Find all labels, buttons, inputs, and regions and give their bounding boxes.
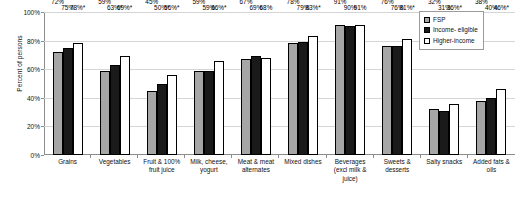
bar[interactable] (63, 48, 73, 155)
x-axis-category-label: Vegetables (91, 158, 138, 183)
bar-group: 76%76%81%* (374, 12, 421, 155)
bar[interactable] (345, 26, 355, 155)
bar-value-label: 91% (354, 5, 367, 11)
y-axis-tick-label: 20% (27, 123, 40, 130)
bar[interactable] (449, 104, 459, 155)
bar[interactable] (261, 58, 271, 155)
x-axis-labels: GrainsVegetablesFruit & 100% fruit juice… (44, 158, 515, 183)
bar[interactable] (100, 71, 110, 155)
bar-column[interactable]: 91% (355, 12, 365, 155)
bar[interactable] (241, 59, 251, 155)
bar[interactable] (194, 71, 204, 155)
bar-column[interactable]: 68% (261, 12, 271, 155)
bar-value-label: 83%* (305, 5, 320, 11)
bar-value-label: 69%* (117, 5, 132, 11)
bar-column[interactable]: 83%* (308, 12, 318, 155)
legend-item-label: Higher-income (433, 36, 475, 46)
bar[interactable] (110, 65, 120, 155)
y-axis-title: Percent of persons (16, 14, 23, 114)
bar-group: 78%79%83%* (279, 12, 326, 155)
bar-group-bars: 72%75%78%* (44, 12, 91, 155)
x-axis-category-label: Mixed dishes (279, 158, 326, 183)
bar[interactable] (439, 111, 449, 155)
bar-column[interactable]: 90% (345, 12, 355, 155)
bar-column[interactable]: 45% (147, 12, 157, 155)
bar-column[interactable]: 40% (486, 12, 496, 155)
bar[interactable] (157, 84, 167, 156)
bar[interactable] (167, 75, 177, 155)
gridline (44, 155, 515, 156)
bar-group-bars: 91%90%91% (327, 12, 374, 155)
bar[interactable] (308, 36, 318, 155)
bar[interactable] (204, 71, 214, 155)
bar-column[interactable]: 72% (53, 12, 63, 155)
bar-column[interactable]: 69% (251, 12, 261, 155)
legend-item-label: Income- eligible (433, 25, 478, 35)
bar[interactable] (335, 25, 345, 155)
legend-item[interactable]: FSP (424, 15, 478, 25)
bar-column[interactable]: 76% (382, 12, 392, 155)
x-axis-category-label: Salty snacks (421, 158, 468, 183)
bar-value-label: 46%* (494, 5, 509, 11)
bar-column[interactable]: 67% (241, 12, 251, 155)
bar[interactable] (392, 46, 402, 155)
bar-group: 67%69%68% (232, 12, 279, 155)
bar[interactable] (476, 101, 486, 155)
bar-column[interactable]: 75% (63, 12, 73, 155)
bar-group: 45%50%*56%* (138, 12, 185, 155)
bar[interactable] (214, 61, 224, 155)
bar[interactable] (147, 91, 157, 155)
legend-swatch-icon (424, 38, 430, 44)
bar-value-label: 66%* (211, 5, 226, 11)
bar-column[interactable]: 46%* (496, 12, 506, 155)
bar[interactable] (486, 98, 496, 155)
bar-value-label: 68% (260, 5, 273, 11)
bar-column[interactable]: 50%* (157, 12, 167, 155)
legend-item[interactable]: Income- eligible (424, 25, 478, 35)
bar[interactable] (73, 43, 83, 155)
bar-group: 59%59%66%* (185, 12, 232, 155)
legend-item[interactable]: Higher-income (424, 36, 478, 46)
bar-column[interactable]: 78% (288, 12, 298, 155)
y-axis-tick (41, 155, 44, 156)
bar[interactable] (355, 25, 365, 155)
legend-swatch-icon (424, 27, 430, 33)
bar-column[interactable]: 59% (100, 12, 110, 155)
bar-column[interactable]: 69%* (120, 12, 130, 155)
bar-column[interactable]: 81%* (402, 12, 412, 155)
x-axis-category-label: Grains (44, 158, 91, 183)
bar-group-bars: 67%69%68% (232, 12, 279, 155)
bar[interactable] (382, 46, 392, 155)
bar-group: 72%75%78%* (44, 12, 91, 155)
bar-value-label: 78%* (70, 5, 85, 11)
bar-column[interactable]: 78%* (73, 12, 83, 155)
x-axis-category-label: Meat & meat alternates (232, 158, 279, 183)
bar[interactable] (429, 109, 439, 155)
bar-column[interactable]: 79% (298, 12, 308, 155)
bar-value-label: 81%* (400, 5, 415, 11)
bar[interactable] (120, 56, 130, 155)
legend-swatch-icon (424, 17, 430, 23)
legend-item-label: FSP (433, 15, 445, 25)
legend: FSPIncome- eligibleHigher-income (419, 11, 484, 50)
bar-group: 91%90%91% (327, 12, 374, 155)
bar[interactable] (288, 43, 298, 155)
y-axis-tick-label: 80% (27, 37, 40, 44)
bar-column[interactable]: 59% (204, 12, 214, 155)
bar[interactable] (251, 56, 261, 155)
bar[interactable] (402, 39, 412, 155)
bar-column[interactable]: 76% (392, 12, 402, 155)
bar-column[interactable]: 59% (194, 12, 204, 155)
bar-group-bars: 59%63%*69%* (91, 12, 138, 155)
bar-column[interactable]: 91% (335, 12, 345, 155)
bar-column[interactable]: 56%* (167, 12, 177, 155)
bar-column[interactable]: 63%* (110, 12, 120, 155)
bar[interactable] (298, 42, 308, 155)
bar-chart: Percent of persons 0%20%40%60%80%100% 72… (0, 0, 521, 208)
bar[interactable] (53, 52, 63, 155)
x-axis-category-label: Milk, cheese, yogurt (185, 158, 232, 183)
bar[interactable] (496, 89, 506, 155)
bar-column[interactable]: 66%* (214, 12, 224, 155)
y-axis-tick-label: 100% (23, 9, 40, 16)
x-axis-category-label: Fruit & 100% fruit juice (138, 158, 185, 183)
